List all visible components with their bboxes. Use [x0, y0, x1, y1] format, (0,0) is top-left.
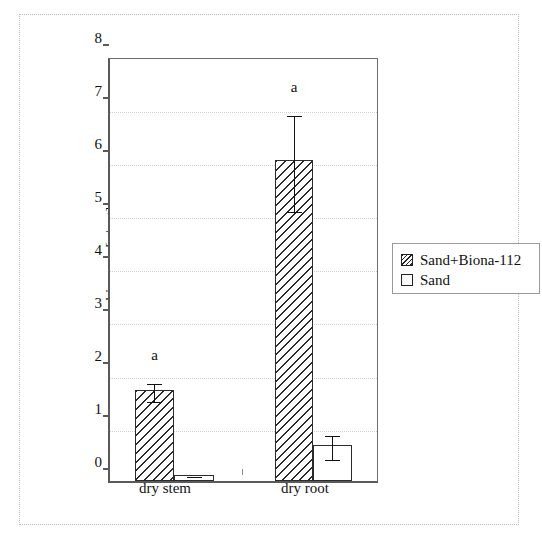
y-tick-label-2: 2	[76, 349, 102, 363]
y-tick-label-8: 8	[76, 31, 102, 45]
y-tick-label-6: 6	[76, 137, 102, 151]
x-axis-label-dry-root: dry root	[235, 480, 375, 497]
legend-item-sand-biona: Sand+Biona-112	[401, 250, 539, 270]
y-tick-mark-8	[103, 44, 109, 46]
errorbar-cap-bottom-dry-stem-sand-biona	[147, 402, 162, 403]
gridline-2	[110, 378, 377, 379]
errorbar-cap-top-dry-stem-sand-biona	[147, 384, 162, 385]
gridline-3	[110, 324, 377, 325]
errorbar-cap-bottom-dry-root-sand	[325, 460, 340, 461]
x-tick-mark-center	[242, 469, 243, 475]
errorbar-cap-dry-stem-sand	[187, 477, 202, 478]
plot-area: a a	[108, 58, 378, 483]
hatched-square-icon	[401, 254, 413, 266]
errorbar-dry-root-sand	[332, 436, 333, 460]
empty-square-icon	[401, 274, 413, 286]
legend-item-sand: Sand	[401, 270, 539, 290]
gridline-7	[110, 112, 377, 113]
legend-label-sand-biona: Sand+Biona-112	[420, 253, 521, 268]
figure-frame: biomass [g/pot] 8 7 6 5 4 3 2 1 0	[19, 14, 519, 525]
errorbar-cap-bottom-dry-root-sand-biona	[287, 212, 302, 213]
errorbar-dry-stem-sand-biona	[154, 384, 155, 402]
gridline-6	[110, 165, 377, 166]
errorbar-dry-root-sand-biona	[294, 116, 295, 212]
gridline-4	[110, 271, 377, 272]
legend-label-sand: Sand	[420, 273, 450, 288]
y-tick-label-7: 7	[76, 84, 102, 98]
errorbar-cap-top-dry-root-sand	[325, 436, 340, 437]
gridline-5	[110, 218, 377, 219]
y-tick-label-4: 4	[76, 243, 102, 257]
y-tick-label-5: 5	[76, 190, 102, 204]
y-tick-label-1: 1	[76, 402, 102, 416]
errorbar-cap-top-dry-root-sand-biona	[287, 116, 302, 117]
chart-legend: Sand+Biona-112 Sand	[392, 243, 540, 294]
significance-letter-dry-root: a	[275, 79, 313, 96]
y-tick-label-0: 0	[76, 455, 102, 469]
x-axis-label-dry-stem: dry stem	[95, 480, 235, 497]
significance-letter-dry-stem: a	[135, 347, 174, 364]
y-tick-label-3: 3	[76, 296, 102, 310]
bar-dry-stem-sand-biona	[135, 390, 174, 481]
